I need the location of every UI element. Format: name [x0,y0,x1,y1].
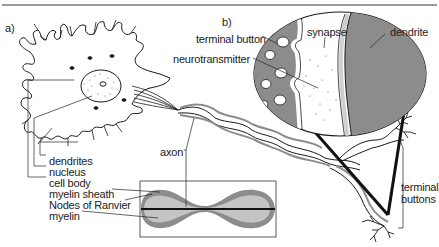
panel-b-label: b) [222,17,231,28]
panel-a-label: a) [5,23,14,34]
label-neurotransmitter: neurotransmitter [173,54,250,65]
label-terminal-buttons-line1: terminal [401,182,439,193]
label-dendrite: dendrite [390,27,428,38]
label-synapse: synapse [307,27,347,38]
cell-body-illustration [20,20,170,146]
label-axon: axon [160,147,183,158]
label-terminal-button: terminal button [196,34,266,45]
label-terminal-buttons-line2: buttons [401,194,436,205]
label-myelin: myelin [49,211,80,222]
myelin-inset [140,181,276,237]
